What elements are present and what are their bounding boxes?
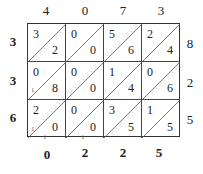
bottom-digit: 5 — [149, 146, 169, 160]
cell-tens-digit: 3 — [109, 103, 115, 118]
top-digit: 3 — [151, 4, 171, 18]
right-digit: 5 — [180, 113, 200, 127]
lattice-cell: 56 — [104, 24, 142, 62]
cell-tens-digit: 0 — [71, 65, 77, 80]
lattice-cell: 15 — [142, 100, 180, 138]
cell-tens-digit: 2 — [147, 27, 153, 42]
cell-ones-digit: 5 — [128, 120, 134, 135]
cell-tens-digit: 0 — [71, 27, 77, 42]
cell-ones-digit: 5 — [167, 120, 173, 135]
carry-digit: 1 — [31, 86, 35, 94]
left-digit: 6 — [3, 111, 23, 125]
cell-tens-digit: 1 — [147, 103, 153, 118]
carry-digit: 1 — [31, 125, 35, 133]
lattice-grid: 3200562408001406200035151111 — [27, 23, 180, 137]
cell-tens-digit: 0 — [33, 65, 39, 80]
carry-digit: 1 — [43, 133, 47, 141]
left-digit: 3 — [3, 74, 23, 88]
cell-ones-digit: 6 — [128, 43, 134, 58]
lattice-cell: 24 — [142, 24, 180, 62]
lattice-cell: 32 — [28, 24, 66, 62]
cell-tens-digit: 5 — [109, 27, 115, 42]
cell-ones-digit: 4 — [167, 43, 173, 58]
bottom-digit: 2 — [75, 146, 95, 160]
right-digit: 8 — [180, 37, 200, 51]
cell-ones-digit: 4 — [128, 81, 134, 96]
top-digit: 7 — [113, 4, 133, 18]
bottom-digit: 0 — [37, 148, 57, 162]
right-digit: 2 — [180, 76, 200, 90]
cell-ones-digit: 8 — [52, 81, 58, 96]
cell-tens-digit: 2 — [33, 103, 39, 118]
lattice-cell: 35 — [104, 100, 142, 138]
left-digit: 3 — [3, 35, 23, 49]
lattice-cell: 08 — [28, 62, 66, 100]
lattice-cell: 00 — [66, 62, 104, 100]
lattice-cell: 14 — [104, 62, 142, 100]
bottom-digit: 2 — [113, 146, 133, 160]
cell-tens-digit: 0 — [71, 103, 77, 118]
lattice-cell: 00 — [66, 24, 104, 62]
cell-ones-digit: 0 — [90, 43, 96, 58]
top-digit: 0 — [75, 4, 95, 18]
cell-ones-digit: 0 — [90, 120, 96, 135]
cell-tens-digit: 0 — [147, 65, 153, 80]
cell-ones-digit: 0 — [90, 81, 96, 96]
cell-ones-digit: 2 — [52, 43, 58, 58]
lattice-cell: 06 — [142, 62, 180, 100]
cell-ones-digit: 0 — [52, 120, 58, 135]
cell-tens-digit: 3 — [33, 27, 39, 42]
lattice-cell: 00 — [66, 100, 104, 138]
cell-tens-digit: 1 — [109, 65, 115, 80]
top-digit: 4 — [36, 4, 56, 18]
carry-digit: 1 — [81, 133, 85, 141]
cell-ones-digit: 6 — [167, 81, 173, 96]
